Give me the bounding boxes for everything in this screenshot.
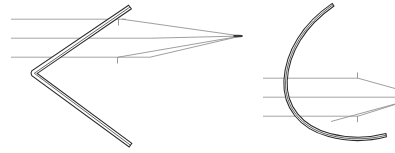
v-mirror-panel [11, 5, 243, 147]
v-mirror-centerline [34, 7, 130, 145]
reflected-ray-3 [331, 104, 395, 122]
reflected-ray-1 [358, 78, 395, 88]
reflected-ray-3 [118, 36, 241, 57]
optics-figure [0, 0, 395, 153]
reflected-ray-1 [122, 19, 241, 36]
v-mirror-outline [31, 5, 132, 147]
focal-point [233, 35, 243, 38]
curved-mirror-panel [263, 3, 395, 140]
reflected-ray-4 [150, 36, 241, 57]
v-mirror-shape [31, 5, 132, 147]
reflected-rays-right [331, 78, 395, 121]
optics-diagram-canvas [0, 0, 395, 153]
reflected-ray-2 [358, 105, 395, 117]
